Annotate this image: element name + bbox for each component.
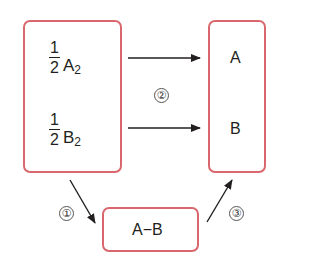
step-1-marker: ① bbox=[59, 206, 74, 221]
molecule-label: B2 bbox=[63, 128, 81, 149]
subscript: 2 bbox=[74, 63, 81, 77]
fraction: 1 2 bbox=[49, 112, 60, 148]
molecule-label: A2 bbox=[63, 56, 81, 77]
half-a2-term: 1 2 A2 bbox=[49, 40, 81, 76]
arrow-step1 bbox=[70, 180, 95, 223]
atoms-box bbox=[208, 20, 266, 173]
half-b2-term: 1 2 B2 bbox=[49, 112, 81, 148]
denominator: 2 bbox=[50, 58, 59, 76]
element-symbol: A bbox=[63, 56, 74, 75]
numerator: 1 bbox=[49, 112, 60, 130]
element-symbol: B bbox=[63, 128, 74, 147]
denominator: 2 bbox=[50, 130, 59, 148]
fraction: 1 2 bbox=[49, 40, 60, 76]
atom-b-label: B bbox=[230, 121, 241, 137]
numerator: 1 bbox=[49, 40, 60, 58]
compound-label: A−B bbox=[132, 222, 163, 238]
step-3-marker: ③ bbox=[229, 206, 244, 221]
atom-a-label: A bbox=[230, 50, 241, 66]
step-2-marker: ② bbox=[154, 88, 169, 103]
subscript: 2 bbox=[74, 135, 81, 149]
arrow-step3 bbox=[207, 180, 232, 222]
